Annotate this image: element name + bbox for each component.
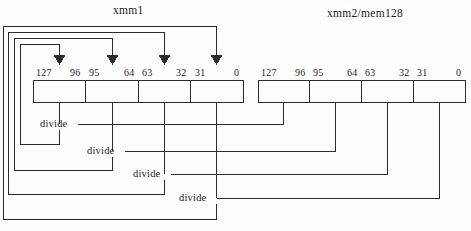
diagram-wiring [0, 0, 471, 231]
register-box-xmm2mem128 [258, 80, 465, 102]
feedback-path-1 [21, 45, 60, 145]
xmm1-lane-drops [60, 102, 217, 198]
lane-arrowheads [54, 55, 223, 65]
register-box-xmm1 [33, 80, 243, 102]
arrowhead-lane-63-32 [159, 55, 171, 65]
simd-divide-diagram: xmm1 xmm2/mem128 127 96 95 64 63 32 31 0… [0, 0, 471, 231]
arrowhead-lane-127-96 [54, 55, 66, 65]
arrowhead-lane-31-0 [211, 55, 223, 65]
arrowhead-lane-95-64 [107, 55, 119, 65]
xmm2-lane-drops [78, 102, 440, 199]
